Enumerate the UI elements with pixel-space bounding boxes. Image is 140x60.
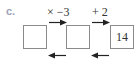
- function-machine-problem: c. × −3 + 2 14: [0, 0, 140, 60]
- forward-arrow-icon: [49, 19, 67, 26]
- reverse-arrow-icon: [91, 52, 109, 59]
- part-label: c.: [6, 5, 15, 17]
- input-box-middle[interactable]: [66, 25, 90, 49]
- operation-label-add: + 2: [92, 5, 108, 20]
- operation-label-multiply: × −3: [47, 5, 70, 20]
- input-box-start[interactable]: [23, 25, 47, 49]
- reverse-arrow-icon: [48, 52, 66, 59]
- forward-arrow-icon: [92, 19, 110, 26]
- output-box-end: 14: [110, 25, 134, 49]
